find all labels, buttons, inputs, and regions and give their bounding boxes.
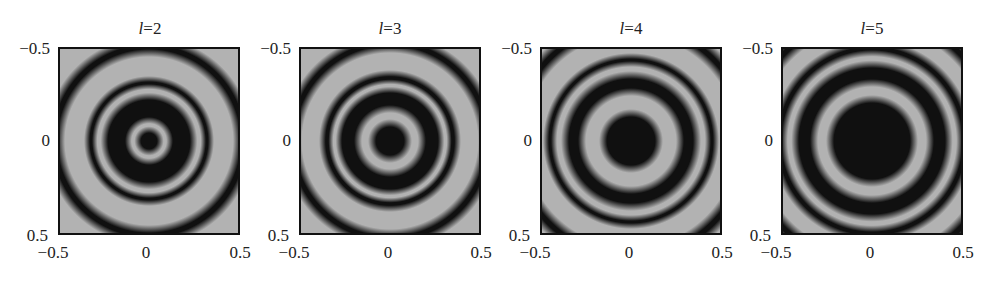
subplot-l5: l=5 −0.5 0 0.5 −0.5 0 0.5: [0, 0, 986, 283]
subplot-title: l=5: [812, 20, 932, 38]
title-value: =5: [865, 19, 883, 38]
y-tick-label: 0: [729, 133, 773, 149]
y-tick-label: 0.5: [727, 228, 771, 244]
y-tick-label: −0.5: [729, 41, 773, 57]
x-tick-label: 0.5: [941, 245, 985, 261]
x-tick-label: 0: [848, 245, 892, 261]
x-tick-label: −0.5: [754, 245, 798, 261]
ring-heatmap: [781, 47, 963, 235]
